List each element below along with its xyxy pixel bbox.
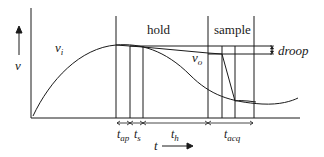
- acquisition-slew: [222, 54, 256, 102]
- droop-indicator-icon: [270, 46, 274, 54]
- interval-label-tap: tap: [117, 127, 130, 143]
- hold-region-label: hold: [147, 22, 171, 37]
- interval-label-th: th: [171, 127, 179, 143]
- interval-label-ts: ts: [134, 127, 141, 143]
- x-axis-label: t: [154, 138, 158, 153]
- droop-label: droop: [278, 43, 309, 58]
- t-axis-arrow-icon: [162, 143, 193, 149]
- y-axis-arrow-icon: [16, 26, 22, 55]
- interval-label-tacq: tacq: [224, 127, 241, 143]
- input-signal-label: vi: [55, 40, 64, 57]
- y-axis-label: v: [15, 58, 21, 73]
- input-signal-curve: [33, 45, 298, 116]
- interval-arrows: [117, 121, 253, 125]
- sample-hold-diagram: v hold sample vi vo droop tap ts th tacq…: [0, 0, 324, 157]
- sample-region-label: sample: [214, 22, 251, 37]
